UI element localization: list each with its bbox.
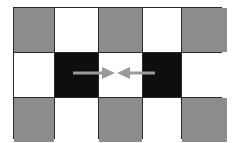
cell-r1-c4 (143, 8, 181, 52)
cell-r3-c4 (143, 98, 181, 142)
checker-grid (13, 7, 222, 139)
cell-r2-c2 (55, 53, 98, 97)
cell-r3-c5 (182, 98, 227, 142)
cell-r3-c2 (55, 98, 98, 142)
cell-r2-c3 (99, 53, 142, 97)
cell-r1-c3 (99, 8, 142, 52)
cell-r1-c1 (14, 8, 54, 52)
cell-r3-c1 (14, 98, 54, 142)
cell-r1-c2 (55, 8, 98, 52)
cell-r3-c3 (99, 98, 142, 142)
cell-r2-c4 (143, 53, 181, 97)
cell-r2-c1 (14, 53, 54, 97)
cell-r1-c5 (182, 8, 227, 52)
cell-r2-c5 (182, 53, 227, 97)
